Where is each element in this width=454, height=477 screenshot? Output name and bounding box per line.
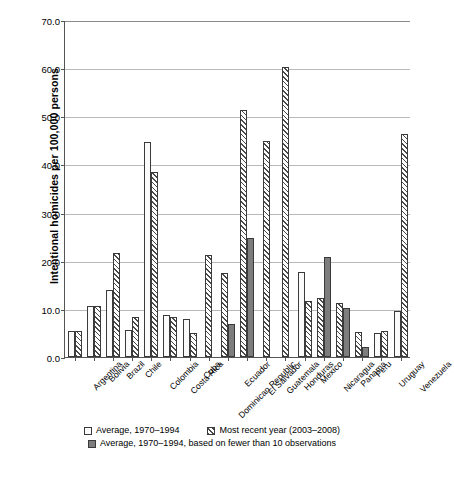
bar-group	[218, 21, 237, 357]
bar-group	[391, 21, 410, 357]
y-axis-tick-label: 10.0	[42, 304, 61, 315]
legend-item-most-recent: Most recent year (2003–2008)	[207, 424, 340, 437]
bar-columns	[65, 21, 410, 357]
bar-group	[257, 21, 276, 357]
bar	[394, 311, 401, 357]
bar-group	[180, 21, 199, 357]
bar	[343, 308, 350, 357]
legend-label-most-recent: Most recent year (2003–2008)	[219, 424, 340, 437]
figure-caption	[14, 469, 414, 477]
bar-group	[65, 21, 84, 357]
bar	[170, 317, 177, 357]
bar-group	[199, 21, 218, 357]
bar	[144, 142, 151, 357]
bar	[247, 238, 254, 357]
bar-group	[123, 21, 142, 357]
bar-group	[295, 21, 314, 357]
x-axis-label-mexico: Mexico	[318, 359, 344, 385]
bar	[381, 331, 388, 357]
bar-group	[314, 21, 333, 357]
bar-group	[84, 21, 103, 357]
legend-row-bottom: Average, 1970–1994, based on fewer than …	[0, 437, 424, 450]
bar-group	[333, 21, 352, 357]
bar	[282, 67, 289, 357]
bar	[374, 333, 381, 357]
y-axis-tick-label: 60.0	[42, 64, 61, 75]
bar	[324, 257, 331, 357]
bar	[355, 332, 362, 357]
bar-group	[238, 21, 257, 357]
bar	[205, 255, 212, 357]
bar-group	[276, 21, 295, 357]
bar-group	[142, 21, 161, 357]
bar	[94, 306, 101, 357]
y-axis-tick-label: 30.0	[42, 208, 61, 219]
bar-group	[353, 21, 372, 357]
bar	[317, 298, 324, 357]
legend-item-average-few-obs: Average, 1970–1994, based on fewer than …	[88, 437, 336, 450]
bar	[125, 330, 132, 357]
bar	[106, 290, 113, 357]
bar	[336, 303, 343, 357]
legend-item-average: Average, 1970–1994	[84, 424, 179, 437]
bar	[305, 301, 312, 357]
bar-group	[161, 21, 180, 357]
bar	[113, 253, 120, 357]
x-axis-label-chile: Chile	[143, 359, 164, 380]
bar	[132, 317, 139, 357]
legend-swatch-average-few-obs-icon	[88, 440, 96, 448]
x-axis-labels: ArgentinaBoliviaBrazilChileColombiaCosta…	[64, 359, 410, 419]
bar	[221, 273, 228, 357]
bar	[163, 315, 170, 357]
bar-group	[372, 21, 391, 357]
y-axis-tick-label: 50.0	[42, 112, 61, 123]
legend-row-top: Average, 1970–1994 Most recent year (200…	[0, 424, 424, 437]
y-axis-tick-label: 20.0	[42, 256, 61, 267]
bar	[362, 347, 369, 357]
bar	[151, 172, 158, 357]
legend-label-average: Average, 1970–1994	[96, 424, 179, 437]
bar-group	[103, 21, 122, 357]
legend-label-average-few-obs: Average, 1970–1994, based on fewer than …	[100, 437, 336, 450]
bar	[190, 333, 197, 357]
legend-swatch-most-recent-icon	[207, 427, 215, 435]
plot-area: 0.010.020.030.040.050.060.070.0	[64, 21, 410, 358]
chart-legend: Average, 1970–1994 Most recent year (200…	[0, 424, 424, 450]
legend-swatch-average-icon	[84, 427, 92, 435]
bar	[183, 319, 190, 357]
bar	[298, 272, 305, 357]
bar	[68, 331, 75, 357]
y-axis-tick-label: 0.0	[47, 353, 60, 364]
y-axis-tick-label: 40.0	[42, 160, 61, 171]
bar	[75, 331, 82, 357]
bar	[87, 306, 94, 357]
bar	[240, 110, 247, 357]
bar	[228, 324, 235, 357]
bar	[401, 134, 408, 357]
y-axis-tick-label: 70.0	[42, 16, 61, 27]
bar	[263, 141, 270, 357]
